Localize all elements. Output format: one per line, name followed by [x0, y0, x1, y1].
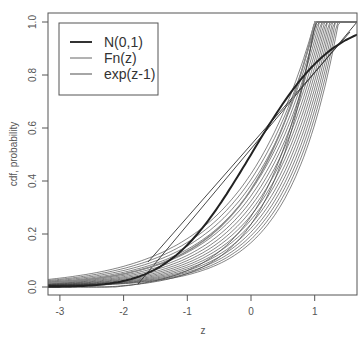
y-tick-label: 0.0	[27, 280, 38, 294]
y-axis: 0.00.20.40.60.81.0	[27, 15, 48, 294]
x-tick-label: 0	[248, 306, 254, 317]
legend-label-exp: exp(z-1)	[104, 66, 155, 82]
x-axis-title: z	[201, 325, 206, 336]
cdf-chart: -3-2-101 0.00.20.40.60.81.0 z cdf, proba…	[0, 0, 363, 349]
y-tick-label: 0.8	[27, 68, 38, 82]
x-tick-label: -2	[119, 306, 128, 317]
x-tick-label: 1	[312, 306, 318, 317]
x-tick-label: -1	[183, 306, 192, 317]
x-axis: -3-2-101	[55, 295, 317, 317]
y-tick-label: 0.4	[27, 174, 38, 188]
y-tick-label: 0.2	[27, 227, 38, 241]
y-axis-title: cdf, probability	[8, 122, 19, 186]
y-tick-label: 1.0	[27, 15, 38, 29]
legend-label-fn: Fn(z)	[104, 50, 137, 66]
legend: N(0,1) Fn(z) exp(z-1)	[59, 23, 158, 95]
x-tick-label: -3	[55, 306, 64, 317]
y-tick-label: 0.6	[27, 121, 38, 135]
legend-label-normal: N(0,1)	[104, 34, 143, 50]
